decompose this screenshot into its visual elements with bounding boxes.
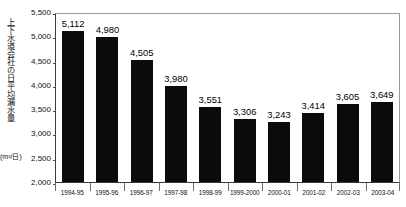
y-axis-tick-label: 2,500 [31,155,51,163]
bar-chart: 上下水道会社の日平均漏水量 (m³/日) 5,5005,0004,5004,00… [0,0,406,207]
bar-value-label: 4,980 [96,25,119,35]
x-axis-category-cell: 1996-97 [124,183,159,207]
x-axis-category-label: 1998-99 [199,189,222,196]
plot-area: 5,1124,9804,5053,9803,5513,3063,2433,414… [55,13,400,183]
bar-value-label: 3,243 [267,110,290,120]
x-axis-category-label: 1994-95 [61,189,84,196]
y-axis-tick-label: 5,500 [31,9,51,17]
x-axis-category-cell: 1999-2000 [228,183,263,207]
bar-value-label: 3,551 [199,95,222,105]
x-axis-category-cell: 2000-01 [262,183,297,207]
bar-slot: 3,605 [330,14,364,182]
bar[interactable]: 5,112 [62,31,84,182]
bar[interactable]: 3,605 [337,104,359,182]
bar-slot: 3,306 [227,14,261,182]
bar[interactable]: 3,306 [234,119,256,182]
x-axis-category-cell: 1998-99 [193,183,228,207]
y-axis-tick-label: 4,000 [31,82,51,90]
bar-slot: 3,649 [365,14,399,182]
x-axis-category-cell: 1997-98 [159,183,194,207]
bar[interactable]: 4,980 [96,37,118,182]
bar-slot: 3,414 [296,14,330,182]
bar[interactable]: 3,551 [199,107,221,182]
y-axis-tick-mark [53,63,56,64]
x-axis-category-labels: 1994-951995-961996-971997-981998-991999-… [55,183,400,207]
x-axis-category-label: 2001-02 [302,189,325,196]
x-axis-category-cell: 1995-96 [90,183,125,207]
x-axis-category-label: 1995-96 [95,189,118,196]
y-axis-tick-label: 4,500 [31,58,51,66]
bar-value-label: 3,306 [233,107,256,117]
y-axis-tick-label: 3,500 [31,106,51,114]
x-axis-category-cell: 1994-95 [55,183,90,207]
bar-slot: 4,505 [125,14,159,182]
y-axis-tick-mark [53,38,56,39]
bar-value-label: 3,649 [370,90,393,100]
y-axis-tick-labels: 5,5005,0004,5004,0003,5003,0002,5002,000 [18,9,51,185]
x-axis-category-label: 2000-01 [268,189,291,196]
bar-value-label: 4,505 [130,48,153,58]
x-axis-category-cell: 2003-04 [366,183,401,207]
y-axis-tick-label: 2,000 [31,179,51,187]
bar-slot: 3,243 [262,14,296,182]
x-axis-category-cell: 2002-03 [331,183,366,207]
bar-value-label: 3,605 [336,92,359,102]
bar-slot: 3,551 [193,14,227,182]
bar-series: 5,1124,9804,5053,9803,5513,3063,2433,414… [56,14,399,182]
bar[interactable]: 3,980 [165,86,187,182]
x-axis-category-cell: 2001-02 [297,183,332,207]
y-axis-title-text: 上下水道会社の日平均漏水量 [4,18,13,122]
x-axis-category-label: 2003-04 [371,189,394,196]
x-axis-category-label: 1999-2000 [230,189,260,196]
x-axis-category-label: 2002-03 [337,189,360,196]
bar-value-label: 3,980 [164,74,187,84]
bar[interactable]: 3,649 [371,102,393,182]
y-axis-tick-label: 5,000 [31,33,51,41]
y-axis-tick-mark [53,160,56,161]
y-axis-tick-mark [53,135,56,136]
bar-slot: 4,980 [90,14,124,182]
bar[interactable]: 3,243 [268,122,290,182]
y-axis-tick-mark [53,14,56,15]
bar-value-label: 5,112 [62,19,85,29]
bar-slot: 3,980 [159,14,193,182]
y-axis-tick-label: 3,000 [31,130,51,138]
x-axis-category-label: 1996-97 [130,189,153,196]
y-axis-tick-mark [53,111,56,112]
y-axis-tick-mark [53,87,56,88]
bar[interactable]: 4,505 [131,60,153,182]
x-axis-category-label: 1997-98 [164,189,187,196]
bar[interactable]: 3,414 [302,113,324,182]
bar-value-label: 3,414 [301,101,324,111]
bar-slot: 5,112 [56,14,90,182]
y-axis-title: 上下水道会社の日平均漏水量 [1,18,17,168]
